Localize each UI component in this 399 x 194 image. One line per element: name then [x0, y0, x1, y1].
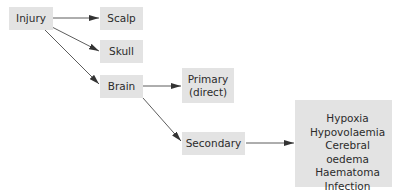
cause-item: Hypoxia — [303, 112, 392, 126]
node-primary-label-line1: Primary — [188, 73, 229, 86]
cause-item: Hypovolaemia — [303, 126, 392, 140]
node-secondary-label: Secondary — [186, 137, 242, 150]
node-injury-label: Injury — [16, 12, 46, 25]
node-brain-label: Brain — [108, 80, 136, 93]
node-secondary-causes: Hypoxia Hypovolaemia Cerebral oedema Hae… — [295, 100, 392, 187]
node-skull: Skull — [100, 40, 143, 63]
node-brain: Brain — [100, 75, 143, 98]
node-skull-label: Skull — [109, 45, 134, 58]
cause-item: Haematoma — [303, 166, 392, 180]
node-scalp-label: Scalp — [107, 12, 135, 25]
node-primary-label-line2: (direct) — [189, 86, 227, 99]
node-primary: Primary (direct) — [182, 68, 234, 103]
node-scalp: Scalp — [100, 7, 143, 30]
cause-item: Infection — [303, 180, 392, 194]
cause-item: Cerebral oedema — [303, 139, 392, 166]
node-secondary: Secondary — [182, 132, 245, 155]
node-injury: Injury — [9, 7, 53, 30]
